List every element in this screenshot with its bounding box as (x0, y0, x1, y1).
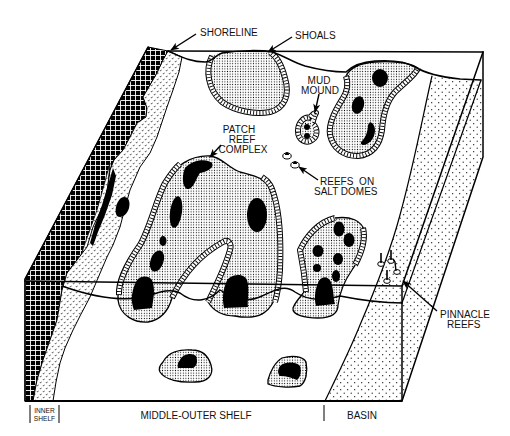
zone-inner-shelf-line1: INNER (34, 407, 55, 414)
reef-core (334, 222, 345, 237)
label-salt-domes-line2: SALT DOMES (314, 186, 378, 197)
reef-core (160, 236, 167, 246)
reef-core (313, 245, 324, 257)
pinnacle-reef (394, 270, 401, 275)
zone-inner-shelf-line2: SHELF (34, 415, 55, 422)
label-patch-reef-line3: COMPLEX (219, 144, 268, 155)
reef-core (313, 264, 321, 272)
zone-middle-outer-shelf: MIDDLE-OUTER SHELF (140, 410, 251, 421)
reef-core (247, 198, 267, 232)
block-diagram: SHORELINE SHOALS MUD MOUND PATCH REEF CO… (0, 0, 510, 436)
label-pinnacle-line2: REEFS (447, 319, 481, 330)
back-water-line (168, 51, 483, 52)
label-shoals: SHOALS (295, 30, 336, 41)
zone-basin: BASIN (347, 410, 377, 421)
diagram-svg: SHORELINE SHOALS MUD MOUND PATCH REEF CO… (0, 0, 510, 436)
reef-core (333, 253, 343, 265)
reef-core (344, 233, 355, 247)
mud-mound-core (304, 133, 310, 139)
shoal (208, 51, 287, 113)
reef-core (332, 270, 340, 282)
label-shoreline: SHORELINE (200, 27, 258, 38)
mud-mound-core (304, 124, 310, 130)
label-mud-mound-line2: MOUND (301, 85, 339, 96)
reef-core (372, 69, 388, 87)
